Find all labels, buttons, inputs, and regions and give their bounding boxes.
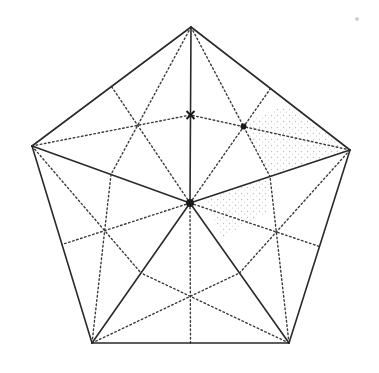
pentagon-median-diagram (0, 0, 379, 373)
shaded-region-1 (246, 105, 350, 177)
median-line-6 (270, 177, 289, 344)
edge-l-t (32, 27, 191, 146)
edge-c-bl (92, 203, 190, 343)
median-line-11 (92, 175, 111, 344)
median-line-15 (111, 27, 191, 175)
edge-c-l (32, 146, 190, 203)
median-line-7 (190, 203, 191, 343)
centroid-dot-icon (241, 124, 247, 130)
center-point-icon (186, 199, 194, 207)
edge-bl-l (32, 146, 92, 343)
median-line-10 (62, 203, 190, 245)
median-line-13 (112, 87, 191, 204)
median-line-8 (141, 273, 289, 343)
median-line-2 (191, 27, 270, 177)
stray-speck-icon (355, 17, 359, 21)
edge-r-br (289, 150, 350, 343)
median-line-9 (92, 273, 240, 343)
median-line-14 (32, 115, 191, 146)
shaded-region-2 (205, 177, 270, 239)
